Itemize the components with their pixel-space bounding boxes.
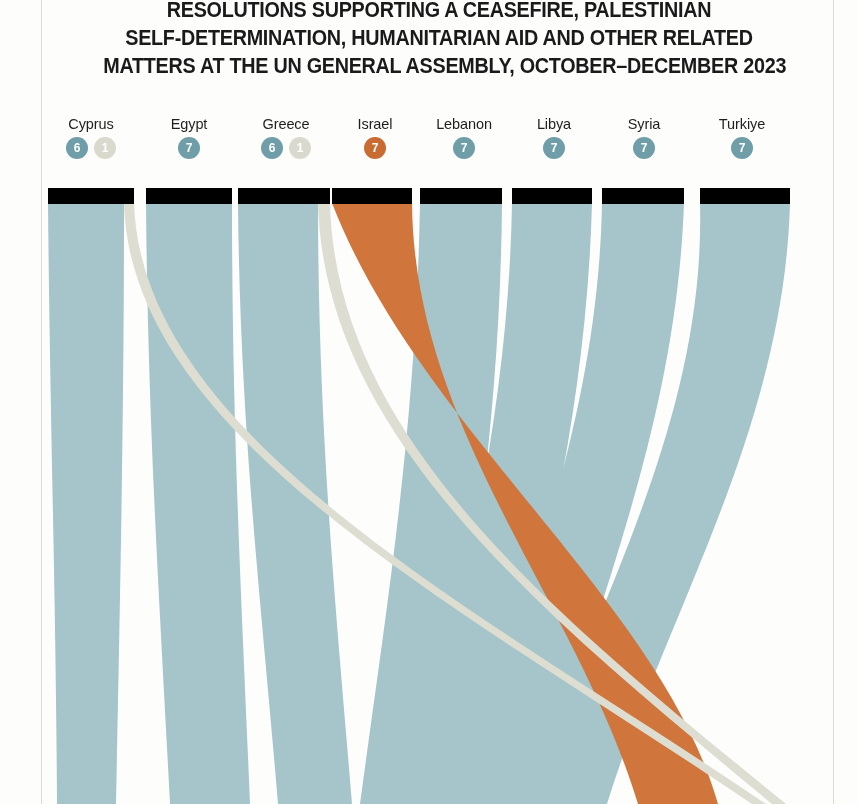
sankey-diagram — [0, 0, 858, 804]
node-bar-cyprus[interactable] — [48, 188, 134, 204]
flow-egypt-yes — [146, 203, 250, 804]
node-bar-israel[interactable] — [332, 188, 412, 204]
node-bar-lebanon[interactable] — [420, 188, 502, 204]
node-bar-syria[interactable] — [602, 188, 684, 204]
node-bar-turkiye[interactable] — [700, 188, 790, 204]
flow-cyprus-yes — [48, 203, 124, 804]
sankey-ribbons — [48, 203, 790, 804]
infographic-page: RESOLUTIONS SUPPORTING A CEASEFIRE, PALE… — [0, 0, 858, 804]
node-bar-libya[interactable] — [512, 188, 592, 204]
sankey-node-bars — [48, 188, 790, 204]
node-bar-egypt[interactable] — [146, 188, 232, 204]
node-bar-greece[interactable] — [238, 188, 330, 204]
